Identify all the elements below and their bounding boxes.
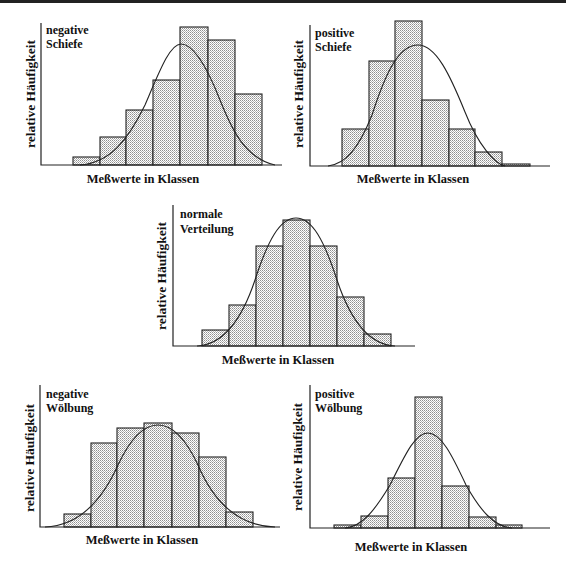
panel-title-line2: Wölbung — [315, 401, 362, 415]
panel-positive-skew: relative Häufigkeit positive Schiefe Meß… — [291, 21, 550, 186]
bar — [283, 220, 310, 346]
x-axis-label: Meßwerte in Klassen — [87, 172, 200, 186]
bar — [442, 486, 469, 528]
y-axis-label: relative Häufigkeit — [23, 39, 38, 148]
x-axis-label: Meßwerte in Klassen — [222, 353, 335, 367]
bars — [73, 27, 262, 165]
bar — [388, 478, 415, 528]
y-axis-label: relative Häufigkeit — [154, 221, 169, 330]
bar — [91, 443, 117, 527]
bar — [180, 27, 208, 165]
bar — [256, 246, 283, 346]
bars — [64, 423, 253, 527]
y-axis-label: relative Häufigkeit — [291, 39, 306, 148]
panel-title-line1: positive — [315, 26, 355, 40]
bar — [144, 423, 172, 527]
x-axis-label: Meßwerte in Klassen — [355, 540, 468, 554]
bar — [172, 433, 199, 527]
y-axis-label: relative Häufigkeit — [290, 402, 305, 511]
bar — [235, 94, 262, 165]
panel-title-line2: Wölbung — [46, 401, 93, 415]
panel-title-line2: Schiefe — [315, 40, 352, 54]
bar — [337, 297, 364, 346]
bars — [334, 397, 522, 528]
bar — [153, 80, 180, 165]
bar — [64, 514, 91, 527]
panel-title-line1: negative — [46, 23, 89, 37]
panel-normal: relative Häufigkeit normale Verteilung M… — [154, 205, 415, 367]
bar — [364, 334, 391, 346]
bar — [422, 100, 449, 166]
x-axis-label: Meßwerte in Klassen — [86, 533, 199, 547]
panel-negative-skew: relative Häufigkeit negative Schiefe Meß… — [23, 23, 282, 186]
bar — [310, 246, 337, 346]
bars — [342, 21, 530, 166]
histogram-figure: relative Häufigkeit negative Schiefe Meß… — [0, 0, 566, 566]
panel-title-line2: Schiefe — [46, 37, 83, 51]
panel-title-line1: normale — [180, 207, 223, 221]
bar — [126, 110, 153, 165]
bar — [226, 512, 253, 527]
panel-title-line1: negative — [46, 387, 89, 401]
bars — [202, 220, 391, 346]
y-axis-label: relative Häufigkeit — [22, 403, 37, 512]
x-axis-label: Meßwerte in Klassen — [357, 172, 470, 186]
bar — [449, 129, 475, 166]
bar — [361, 516, 388, 528]
bar — [395, 21, 422, 166]
panel-negative-kurtosis: relative Häufigkeit negative Wölbung Meß… — [22, 385, 280, 547]
bar — [469, 517, 496, 528]
panel-title-line2: Verteilung — [180, 222, 234, 236]
panel-positive-kurtosis: relative Häufigkeit positive Wölbung Meß… — [290, 385, 550, 554]
panel-title-line1: positive — [315, 387, 355, 401]
bar — [202, 330, 229, 346]
bar — [415, 397, 442, 528]
